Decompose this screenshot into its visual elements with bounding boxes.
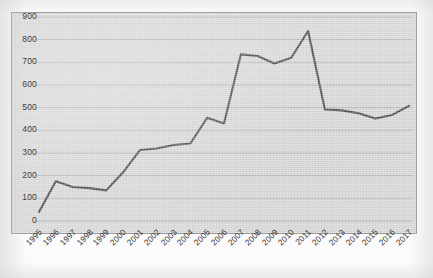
y-axis-tick-label: 400 bbox=[22, 125, 37, 134]
y-axis-tick-label: 500 bbox=[22, 103, 37, 112]
y-axis-tick-label: 900 bbox=[22, 12, 37, 21]
chart-plot-area bbox=[11, 12, 417, 234]
y-axis-tick-label: 700 bbox=[22, 57, 37, 66]
y-axis-tick-labels: 9008007006005004003002001000 bbox=[11, 12, 37, 234]
chart-screenshot: 9008007006005004003002001000 19951996199… bbox=[0, 0, 433, 278]
y-axis-tick-label: 0 bbox=[32, 216, 37, 225]
gridlines-group bbox=[35, 17, 413, 221]
y-axis-tick-label: 200 bbox=[22, 171, 37, 180]
y-axis-tick-label: 100 bbox=[22, 193, 37, 202]
data-line bbox=[39, 31, 409, 212]
line-chart-svg bbox=[12, 13, 416, 233]
y-axis-tick-label: 800 bbox=[22, 35, 37, 44]
y-axis-tick-label: 600 bbox=[22, 80, 37, 89]
y-axis-tick-label: 300 bbox=[22, 148, 37, 157]
data-series-group bbox=[39, 31, 409, 212]
